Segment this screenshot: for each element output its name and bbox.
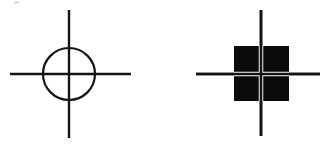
- figure-canvas: [0, 0, 327, 144]
- figure-svg: [0, 0, 327, 144]
- square-quadrant-bottom-left: [234, 76, 259, 101]
- square-quadrant-top-left: [234, 46, 259, 72]
- square-quadrant-bottom-right: [263, 76, 289, 101]
- background: [0, 0, 327, 144]
- square-quadrant-top-right: [263, 46, 289, 72]
- faint-corner-speck: [14, 1, 19, 4]
